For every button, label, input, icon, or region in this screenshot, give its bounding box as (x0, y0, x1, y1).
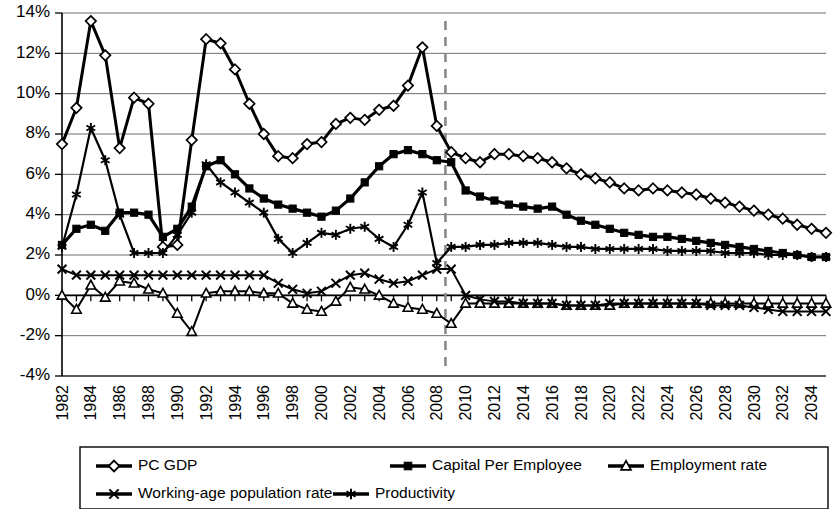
marker-square (404, 147, 411, 154)
x-axis-tick-label: 2000 (313, 385, 330, 421)
x-axis-tick-label: 2002 (342, 385, 359, 421)
x-axis-tick-label: 2020 (601, 385, 618, 421)
y-axis-tick-label: 6% (25, 164, 50, 183)
y-axis-tick-label: -4% (20, 365, 50, 384)
marker-square (649, 233, 656, 240)
marker-square (87, 221, 94, 228)
x-axis-tick-label: 2008 (428, 385, 445, 421)
x-axis-tick-label: 1996 (255, 385, 272, 421)
x-axis-tick-label: 2010 (457, 385, 474, 421)
x-axis-tick-label: 1998 (284, 385, 301, 421)
x-axis-tick-label: 2028 (717, 385, 734, 421)
marker-square (563, 211, 570, 218)
marker-square (433, 157, 440, 164)
x-axis-tick-label: 1984 (82, 385, 99, 421)
marker-square (505, 201, 512, 208)
marker-square (549, 203, 556, 210)
x-axis-tick-label: 2024 (659, 385, 676, 421)
marker-square (462, 187, 469, 194)
y-axis-tick-label: -2% (20, 325, 50, 344)
marker-square (102, 227, 109, 234)
x-axis-tick-label: 2018 (573, 385, 590, 421)
marker-square (678, 235, 685, 242)
marker-square (130, 209, 137, 216)
x-axis-tick-label: 1982 (54, 385, 71, 421)
x-axis-tick-label: 2022 (630, 385, 647, 421)
marker-square (606, 225, 613, 232)
marker-square (491, 197, 498, 204)
legend-item-label: Productivity (375, 484, 455, 501)
y-axis-tick-label: 10% (16, 83, 50, 102)
y-axis-tick-label: 12% (16, 43, 50, 62)
marker-square (231, 171, 238, 178)
marker-square (260, 195, 267, 202)
marker-square (419, 151, 426, 158)
legend-item-label: Employment rate (650, 456, 767, 473)
marker-square (448, 159, 455, 166)
x-axis-tick-label: 1994 (227, 385, 244, 421)
y-axis-tick-label: 8% (25, 123, 50, 142)
legend-item-label: Capital Per Employee (432, 456, 582, 473)
x-axis-tick-label: 2006 (400, 385, 417, 421)
marker-square (404, 462, 412, 470)
marker-square (664, 233, 671, 240)
marker-square (534, 205, 541, 212)
marker-square (145, 211, 152, 218)
marker-square (693, 237, 700, 244)
marker-square (217, 157, 224, 164)
marker-square (376, 163, 383, 170)
legend-item-label: PC GDP (138, 456, 197, 473)
marker-square (73, 225, 80, 232)
x-axis-tick-label: 1992 (198, 385, 215, 421)
x-axis-tick-label: 1986 (111, 385, 128, 421)
x-axis-tick-label: 2004 (371, 385, 388, 421)
marker-square (318, 213, 325, 220)
x-axis-tick-label: 2012 (486, 385, 503, 421)
chart-container: 14%12%10%8%6%4%2%0%-2%-4% 19821984198619… (0, 0, 833, 509)
x-axis-tick-label: 2014 (515, 385, 532, 421)
marker-square (476, 193, 483, 200)
x-axis-tick-label: 2030 (746, 385, 763, 421)
marker-square (390, 151, 397, 158)
marker-square (361, 179, 368, 186)
marker-square (721, 241, 728, 248)
marker-square (520, 203, 527, 210)
marker-square (246, 185, 253, 192)
marker-square (289, 205, 296, 212)
y-axis-tick-label: 14% (16, 2, 50, 21)
marker-square (303, 209, 310, 216)
x-axis-tick-label: 1990 (169, 385, 186, 421)
y-axis-tick-label: 2% (25, 244, 50, 263)
x-axis-tick-label: 2032 (774, 385, 791, 421)
marker-square (159, 233, 166, 240)
marker-square (621, 229, 628, 236)
legend-item-label: Working-age population rate (138, 484, 332, 501)
x-axis-tick-label: 1988 (140, 385, 157, 421)
marker-square (577, 217, 584, 224)
marker-square (332, 207, 339, 214)
economic-growth-decomposition-chart: 14%12%10%8%6%4%2%0%-2%-4% 19821984198619… (0, 0, 833, 509)
marker-square (592, 221, 599, 228)
x-axis-tick-label: 2034 (803, 385, 820, 421)
marker-square (275, 201, 282, 208)
x-axis-tick-label: 2026 (688, 385, 705, 421)
y-axis-tick-label: 0% (25, 285, 50, 304)
marker-square (707, 239, 714, 246)
y-axis-tick-label: 4% (25, 204, 50, 223)
marker-square (347, 195, 354, 202)
x-axis-tick-label: 2016 (544, 385, 561, 421)
marker-square (635, 231, 642, 238)
